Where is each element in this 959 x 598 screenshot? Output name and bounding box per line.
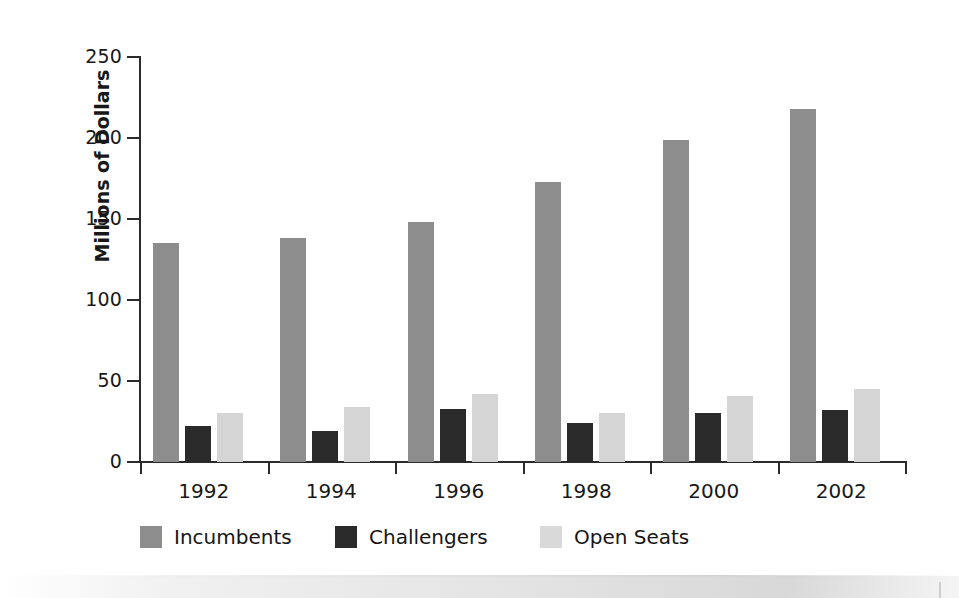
y-axis-tick-label: 200 xyxy=(56,128,122,147)
bar-challengers-1994 xyxy=(312,431,338,462)
y-axis-title: Millions of Dollars xyxy=(91,61,113,271)
bar-group-1994 xyxy=(268,57,396,462)
y-axis-tick-label: 50 xyxy=(56,371,122,390)
x-axis-tick xyxy=(523,462,525,474)
x-axis-tick-label-1998: 1998 xyxy=(531,479,641,503)
y-axis-tick xyxy=(127,461,140,463)
legend-item-challengers: Challengers xyxy=(335,522,488,552)
dark-gray-swatch xyxy=(335,526,357,548)
legend-label: Open Seats xyxy=(574,526,689,548)
bar-group-1998 xyxy=(523,57,651,462)
y-axis-tick-label-text: 50 xyxy=(64,371,122,390)
legend-item-incumbents: Incumbents xyxy=(140,522,292,552)
light-gray-swatch xyxy=(540,526,562,548)
plot-area xyxy=(140,57,905,462)
bar-incumbents-2000 xyxy=(663,140,689,462)
bar-group-2000 xyxy=(650,57,778,462)
y-axis-tick-label: 0 xyxy=(56,452,122,471)
y-axis-tick xyxy=(127,299,140,301)
bar-open-seats-1996 xyxy=(472,394,498,462)
legend-item-open-seats: Open Seats xyxy=(540,522,689,552)
x-axis-tick xyxy=(140,462,142,474)
bar-incumbents-1994 xyxy=(280,238,306,462)
legend-label: Incumbents xyxy=(174,526,292,548)
bar-group-1992 xyxy=(140,57,268,462)
x-axis-tick-end xyxy=(905,462,907,474)
bar-challengers-1998 xyxy=(567,423,593,462)
x-axis-tick xyxy=(778,462,780,474)
bar-group-1996 xyxy=(395,57,523,462)
y-axis-tick-label: 150 xyxy=(56,209,122,228)
bar-chart-figure: Millions of Dollars 050100150200250 1992… xyxy=(0,0,959,598)
bar-incumbents-1992 xyxy=(153,243,179,462)
bar-challengers-2000 xyxy=(695,413,721,462)
y-axis-tick-label: 100 xyxy=(56,290,122,309)
x-axis-tick-label-1996: 1996 xyxy=(404,479,514,503)
y-axis-tick-label-text: 250 xyxy=(64,47,122,66)
bar-open-seats-2002 xyxy=(854,389,880,462)
y-axis-tick-label-text: 0 xyxy=(64,452,122,471)
bar-open-seats-2000 xyxy=(727,396,753,462)
x-axis-tick xyxy=(268,462,270,474)
x-axis-tick xyxy=(395,462,397,474)
x-axis-tick-label-1994: 1994 xyxy=(276,479,386,503)
bar-open-seats-1998 xyxy=(599,413,625,462)
page-edge-mark xyxy=(939,582,941,598)
x-axis-tick xyxy=(650,462,652,474)
x-axis-tick-label-1992: 1992 xyxy=(149,479,259,503)
medium-gray-swatch xyxy=(140,526,162,548)
scan-artifact-band xyxy=(0,576,959,598)
bar-open-seats-1992 xyxy=(217,413,243,462)
y-axis-tick-label: 250 xyxy=(56,47,122,66)
y-axis-tick xyxy=(127,380,140,382)
bar-group-2002 xyxy=(778,57,906,462)
bar-challengers-2002 xyxy=(822,410,848,462)
bar-open-seats-1994 xyxy=(344,407,370,462)
chart-legend: IncumbentsChallengersOpen Seats xyxy=(140,522,840,556)
bar-challengers-1996 xyxy=(440,409,466,462)
bar-incumbents-1998 xyxy=(535,182,561,462)
legend-label: Challengers xyxy=(369,526,488,548)
y-axis-tick xyxy=(127,56,140,58)
y-axis-tick-label-text: 200 xyxy=(64,128,122,147)
x-axis-tick-label-2000: 2000 xyxy=(659,479,769,503)
bar-challengers-1992 xyxy=(185,426,211,462)
y-axis-tick xyxy=(127,218,140,220)
bar-incumbents-1996 xyxy=(408,222,434,462)
y-axis-tick-label-text: 100 xyxy=(64,290,122,309)
x-axis-tick-label-2002: 2002 xyxy=(786,479,896,503)
y-axis-tick xyxy=(127,137,140,139)
bar-incumbents-2002 xyxy=(790,109,816,462)
y-axis-tick-label-text: 150 xyxy=(64,209,122,228)
